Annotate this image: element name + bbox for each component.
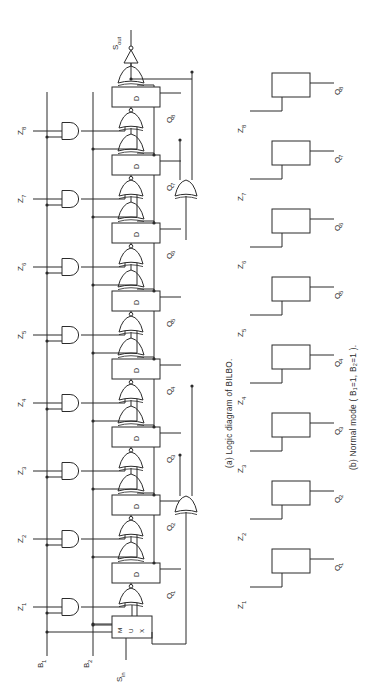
scan-tap-4 — [152, 357, 155, 360]
normal-mode-ff-3 — [272, 413, 310, 437]
xnor-gate-7-invert-bubble — [129, 176, 133, 180]
xnor-gate-8-invert-bubble — [129, 108, 133, 112]
b2-mux-tap — [91, 622, 94, 625]
d-flipflop-letter-5: D — [133, 300, 140, 305]
scan-tap-5 — [152, 289, 155, 292]
b1-tap-4 — [45, 407, 48, 410]
b1-tap-2 — [45, 543, 48, 546]
feedback-tap-4 — [190, 70, 193, 73]
and-gate-1 — [62, 599, 79, 616]
b1-tap-6 — [45, 271, 48, 274]
mux-box — [112, 616, 152, 638]
caption-b-text: (b) Normal mode ( B₁=1, B₂=1 ). — [349, 345, 358, 470]
normal-mode-ff-8 — [272, 73, 310, 97]
b1-mux-tap — [45, 630, 48, 633]
d-flipflop-letter-text-6: D — [133, 232, 140, 237]
normal-mode-ff-2 — [272, 481, 310, 505]
d-flipflop-letter-6: D — [133, 232, 140, 237]
caption-b: (b) Normal mode ( B₁=1, B₂=1 ). — [349, 345, 358, 470]
d-flipflop-letter-text-3: D — [133, 436, 140, 441]
scan-tap-7 — [152, 153, 155, 156]
feedback-tap-3 — [178, 138, 181, 141]
b2-tap-8 — [91, 147, 94, 150]
figure-background — [0, 0, 377, 694]
d-flipflop-letter-text-8: D — [133, 96, 140, 101]
bilbo-logic-diagram: B1B2DZ1Q1DZ2Q2DZ3Q3DZ4Q4DZ5Q5DZ6Q6DZ7Q7D… — [0, 0, 377, 694]
caption-a: (a) Logic diagram of BILBO. — [225, 358, 234, 468]
b2-tap-2 — [91, 555, 94, 558]
b2-tap-7 — [91, 215, 94, 218]
d-flipflop-letter-2: D — [133, 504, 140, 509]
mux-letter-text-0: M — [116, 628, 123, 633]
feedback-tap-2 — [190, 384, 193, 387]
d-flipflop-letter-text-4: D — [133, 368, 140, 373]
b1-tap-8 — [45, 135, 48, 138]
figure-container: B1B2DZ1Q1DZ2Q2DZ3Q3DZ4Q4DZ5Q5DZ6Q6DZ7Q7D… — [0, 0, 377, 694]
xnor-gate-4-invert-bubble — [129, 380, 133, 384]
normal-mode-ff-5 — [272, 277, 310, 301]
xnor-gate-3-invert-bubble — [129, 448, 133, 452]
mux-letter-text-2: X — [138, 629, 145, 633]
and-gate-2 — [62, 531, 79, 548]
scan-tap-6 — [152, 221, 155, 224]
d-flipflop-letter-1: D — [133, 572, 140, 577]
xnor-gate-6-invert-bubble — [129, 244, 133, 248]
scan-out-inverter-bubble — [129, 46, 133, 50]
d-flipflop-letter-8: D — [133, 96, 140, 101]
b1-tap-5 — [45, 339, 48, 342]
normal-mode-ff-7 — [272, 141, 310, 165]
normal-mode-ff-6 — [272, 209, 310, 233]
mux-letter-text-1: U — [127, 629, 134, 633]
b2-tap-6 — [91, 283, 94, 286]
and-gate-6 — [62, 259, 79, 276]
b1-tap-3 — [45, 475, 48, 478]
scan-tap-2 — [152, 493, 155, 496]
d-flipflop-letter-4: D — [133, 368, 140, 373]
d-flipflop-letter-text-7: D — [133, 164, 140, 169]
and-gate-4 — [62, 395, 79, 412]
d-flipflop-letter-text-2: D — [133, 504, 140, 509]
xnor-gate-1-invert-bubble — [129, 584, 133, 588]
normal-mode-ff-1 — [272, 549, 310, 573]
b1-tap-1 — [45, 611, 48, 614]
d-flipflop-letter-7: D — [133, 164, 140, 169]
b1-tap-7 — [45, 203, 48, 206]
and-gate-3 — [62, 463, 79, 480]
label-scan-in-subscript: in — [120, 672, 126, 677]
xnor-gate-5-invert-bubble — [129, 312, 133, 316]
d-flipflop-letter-text-5: D — [133, 300, 140, 305]
label-scan-out-subscript: out — [116, 36, 122, 45]
scan-tap-3 — [152, 425, 155, 428]
and-gate-7 — [62, 191, 79, 208]
caption-a-text: (a) Logic diagram of BILBO. — [225, 358, 234, 468]
normal-mode-ff-4 — [272, 345, 310, 369]
mux-letter-2: X — [138, 629, 145, 633]
xnor-gate-2-invert-bubble — [129, 516, 133, 520]
b2-tap-4 — [91, 419, 94, 422]
d-flipflop-letter-3: D — [133, 436, 140, 441]
scan-tap-1 — [152, 561, 155, 564]
mux-letter-1: U — [127, 629, 134, 633]
feedback-tap-1 — [178, 453, 181, 456]
mux-letter-0: M — [116, 628, 123, 633]
and-gate-5 — [62, 327, 79, 344]
b2-tap-5 — [91, 351, 94, 354]
d-flipflop-letter-text-1: D — [133, 572, 140, 577]
and-gate-8 — [62, 123, 79, 140]
b2-tap-3 — [91, 487, 94, 490]
